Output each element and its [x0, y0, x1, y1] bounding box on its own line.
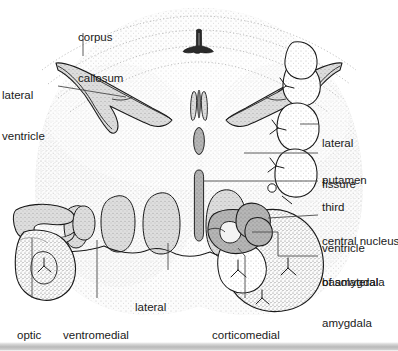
label-basolateral-amygdala-line2: amygdala [322, 317, 378, 331]
anatomy-figure: corpus callosum lateral ventricle latera… [0, 0, 398, 351]
label-lateral-ventricle-line1: lateral [2, 89, 45, 103]
label-corticomedial-amygdala-line1: corticomedial [212, 329, 280, 343]
label-lateral-ventricle-line2: ventricle [2, 130, 45, 144]
bottom-divider-bar [0, 342, 398, 351]
label-optic-tract-line1: optic [17, 329, 41, 343]
label-central-nucleus-amygdala-line1: central nucleus [322, 235, 398, 249]
nucleus-ventromedial-hypothalamus-left [143, 193, 180, 254]
label-basolateral-amygdala: basolateral amygdala [322, 249, 378, 351]
third-ventricle-structure [194, 128, 205, 242]
label-basolateral-amygdala-line1: basolateral [322, 276, 378, 290]
label-corpus-callosum: corpus callosum [78, 4, 123, 112]
label-lateral-hypothalamus: lateral hypothalamus [135, 274, 207, 351]
label-corpus-callosum-line2: callosum [78, 72, 123, 86]
label-corpus-callosum-line1: corpus [78, 31, 123, 45]
label-lateral-ventricle: lateral ventricle [2, 62, 45, 170]
putamen-structure [277, 103, 319, 151]
nucleus-lateral-hypothalamus-left [101, 196, 135, 252]
label-ventromedial-hypothalamus-line1: ventromedial [63, 329, 135, 343]
label-lateral-hypothalamus-line1: lateral [135, 301, 207, 315]
